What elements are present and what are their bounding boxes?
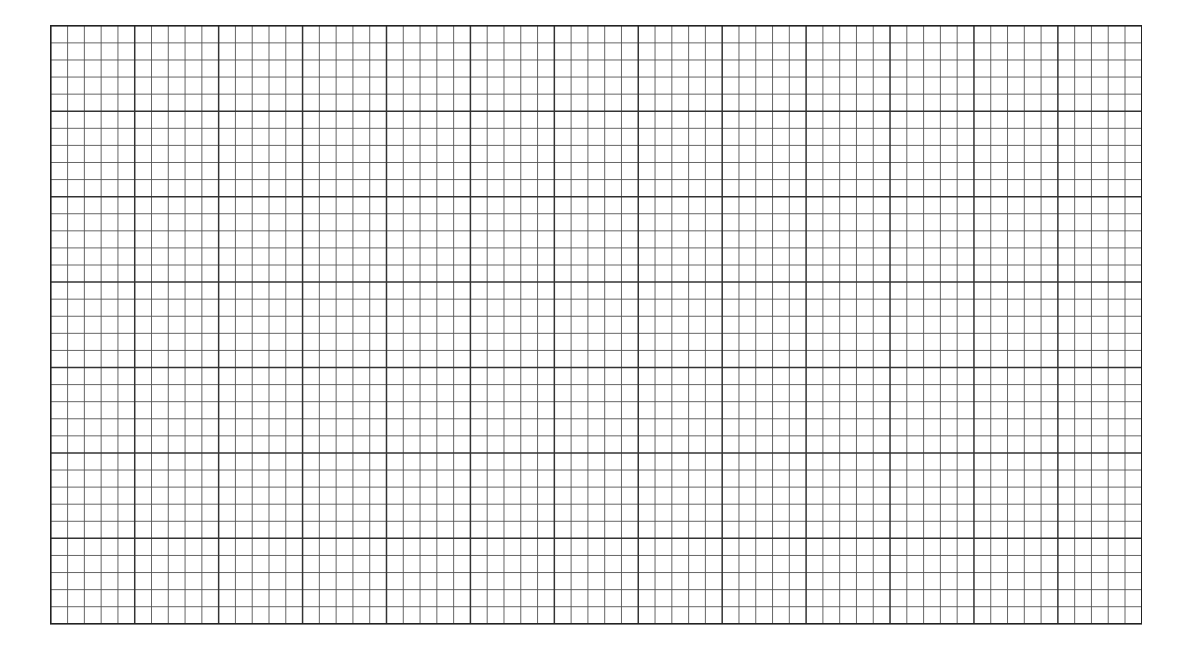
major-grid-lines	[51, 26, 1142, 624]
minor-grid-lines	[51, 26, 1142, 624]
grid-border	[51, 26, 1142, 624]
graph-paper-grid	[50, 25, 1142, 625]
